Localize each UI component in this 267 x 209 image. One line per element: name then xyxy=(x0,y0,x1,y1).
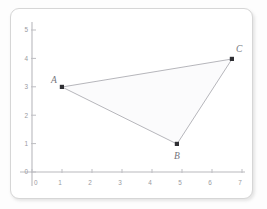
x-axis-tick-labels: 0 1 2 3 4 5 6 7 xyxy=(34,179,242,186)
y-tick-label: 0 xyxy=(24,168,28,175)
screenshot-root: 0 1 2 3 4 5 6 7 0 1 2 3 4 5 xyxy=(0,0,267,209)
triangle-plot: 0 1 2 3 4 5 6 7 0 1 2 3 4 5 xyxy=(0,0,267,209)
y-tick-label: 4 xyxy=(24,55,28,62)
vertex-point-b xyxy=(175,142,179,146)
vertex-point-c xyxy=(230,57,234,61)
y-axis-tick-labels: 0 1 2 3 4 5 xyxy=(24,26,28,175)
x-tick-label: 1 xyxy=(58,179,62,186)
x-tick-label: 2 xyxy=(88,179,92,186)
triangle-fill xyxy=(62,59,232,144)
y-tick-label: 5 xyxy=(24,26,28,33)
vertex-label-b: B xyxy=(174,151,180,161)
x-tick-label: 0 xyxy=(34,179,38,186)
vertex-label-c: C xyxy=(236,44,243,54)
x-tick-label: 3 xyxy=(118,179,122,186)
y-tick-label: 1 xyxy=(24,140,28,147)
x-tick-label: 7 xyxy=(238,179,242,186)
vertex-point-a xyxy=(60,85,64,89)
y-tick-label: 3 xyxy=(24,83,28,90)
x-tick-label: 4 xyxy=(148,179,152,186)
vertex-label-a: A xyxy=(50,75,57,85)
x-tick-label: 6 xyxy=(208,179,212,186)
x-tick-label: 5 xyxy=(178,179,182,186)
y-tick-label: 2 xyxy=(24,112,28,119)
